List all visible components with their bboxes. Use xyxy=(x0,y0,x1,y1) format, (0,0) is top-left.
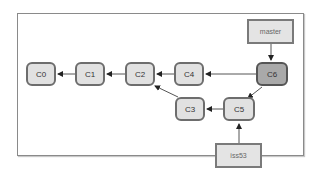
commit-c6-head: C6 xyxy=(256,62,288,86)
commit-label: C0 xyxy=(36,70,46,79)
branch-ref-master: master xyxy=(247,19,294,44)
commit-label: C3 xyxy=(185,105,195,114)
edge-c3-c2 xyxy=(155,86,178,97)
commit-label: C5 xyxy=(234,105,244,114)
commit-label: C1 xyxy=(85,70,95,79)
commit-c0: C0 xyxy=(26,62,56,86)
commit-c3: C3 xyxy=(175,97,205,121)
commit-label: C2 xyxy=(135,70,145,79)
commit-c1: C1 xyxy=(75,62,105,86)
branch-label: iss53 xyxy=(230,152,246,159)
commit-c5: C5 xyxy=(223,97,255,121)
commit-label: C4 xyxy=(184,70,194,79)
commit-c4: C4 xyxy=(174,62,204,86)
commit-c2: C2 xyxy=(125,62,155,86)
commit-label: C6 xyxy=(267,70,277,79)
branch-label: master xyxy=(260,28,281,35)
branch-ref-iss53: iss53 xyxy=(215,143,262,168)
